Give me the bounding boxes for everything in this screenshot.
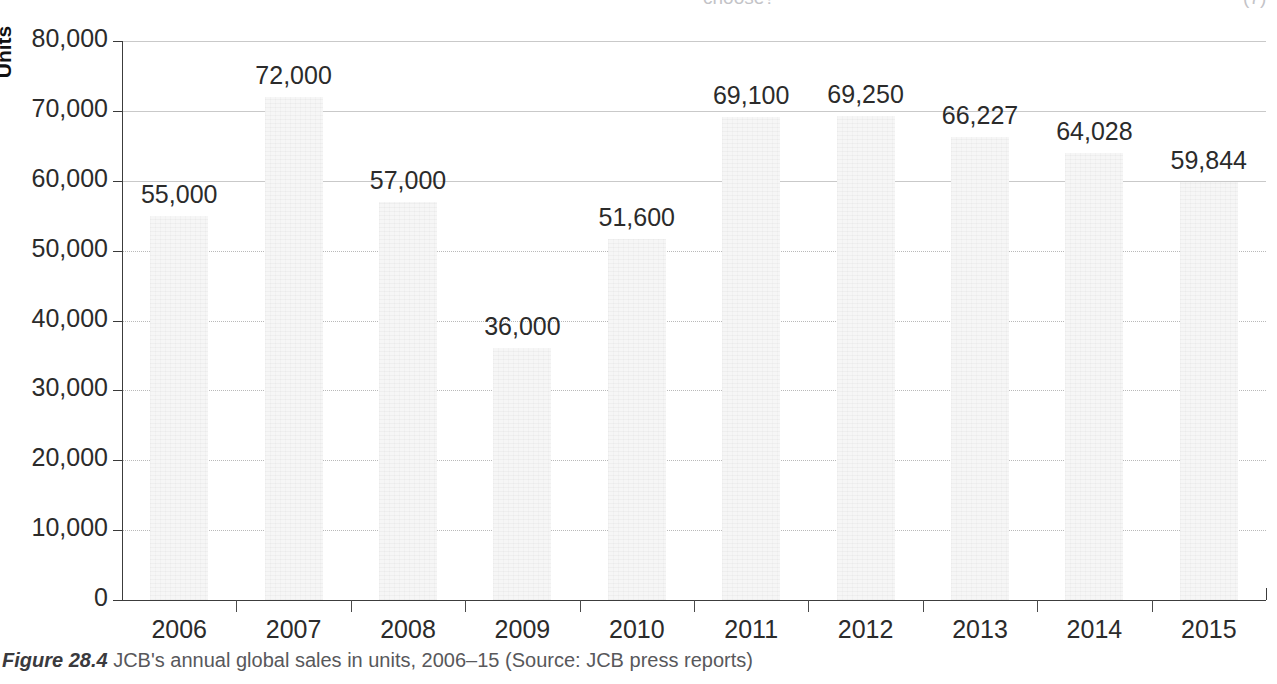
bar — [608, 239, 666, 600]
y-tick-label: 50,000 — [0, 234, 108, 263]
y-axis-line — [122, 41, 123, 600]
x-tick-mark — [1037, 600, 1038, 612]
y-tick-label: 70,000 — [0, 94, 108, 123]
x-tick-mark — [465, 600, 466, 612]
x-tick-mark — [580, 600, 581, 612]
bar — [493, 348, 551, 600]
bar — [1065, 153, 1123, 600]
y-tick-mark — [113, 321, 122, 322]
y-tick-mark — [113, 390, 122, 391]
y-tick-label: 30,000 — [0, 373, 108, 402]
bar — [1180, 182, 1238, 600]
bar-value-label: 55,000 — [99, 180, 259, 209]
y-tick-label: 0 — [0, 583, 108, 612]
bar-value-label: 72,000 — [214, 61, 374, 90]
bar-value-label: 59,844 — [1129, 146, 1277, 175]
x-tick-label: 2015 — [1139, 615, 1277, 644]
y-tick-label: 10,000 — [0, 513, 108, 542]
bar-value-label: 36,000 — [442, 312, 602, 341]
x-tick-mark — [351, 600, 352, 612]
bar — [722, 117, 780, 600]
y-tick-mark — [113, 460, 122, 461]
y-tick-label: 40,000 — [0, 304, 108, 333]
x-tick-mark — [808, 600, 809, 612]
gridline — [122, 41, 1266, 42]
bar-value-label: 51,600 — [557, 203, 717, 232]
x-axis-right-cap — [1266, 588, 1267, 600]
figure-28-4: Units 55,00072,00057,00036,00051,60069,1… — [0, 0, 1277, 684]
y-tick-label: 20,000 — [0, 443, 108, 472]
bar — [951, 137, 1009, 600]
x-tick-mark — [236, 600, 237, 612]
y-tick-mark — [113, 111, 122, 112]
x-tick-mark — [694, 600, 695, 612]
bar-value-label: 64,028 — [1014, 117, 1174, 146]
bar — [265, 97, 323, 600]
y-tick-mark — [113, 251, 122, 252]
bar — [150, 216, 208, 600]
bar — [837, 116, 895, 600]
y-tick-mark — [113, 530, 122, 531]
figure-caption: Figure 28.4 JCB's annual global sales in… — [2, 649, 1272, 672]
bar — [379, 202, 437, 600]
bar-value-label: 57,000 — [328, 166, 488, 195]
y-tick-mark — [113, 600, 122, 601]
bar-chart: Units 55,00072,00057,00036,00051,60069,1… — [0, 0, 1277, 640]
y-tick-label: 80,000 — [0, 24, 108, 53]
y-tick-mark — [113, 41, 122, 42]
x-tick-mark — [923, 600, 924, 612]
x-tick-mark — [1152, 600, 1153, 612]
plot-area: 55,00072,00057,00036,00051,60069,10069,2… — [122, 41, 1266, 600]
figure-number: Figure 28.4 — [2, 649, 108, 671]
y-tick-label: 60,000 — [0, 164, 108, 193]
figure-caption-text: JCB's annual global sales in units, 2006… — [113, 649, 753, 671]
